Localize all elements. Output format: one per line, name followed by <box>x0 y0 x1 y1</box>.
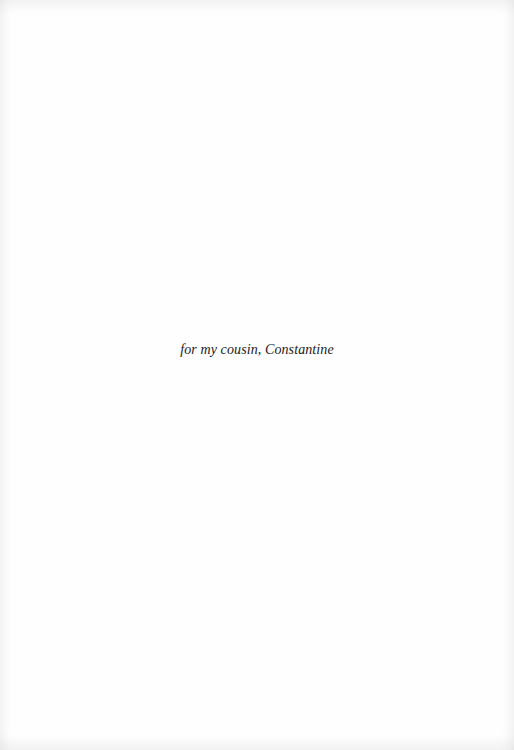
scan-edge-top <box>0 0 514 14</box>
scan-edge-left <box>0 0 10 750</box>
scan-edge-right <box>504 0 514 750</box>
dedication-text: for my cousin, Constantine <box>0 340 514 360</box>
scan-edge-bottom <box>0 734 514 750</box>
book-page: for my cousin, Constantine <box>0 0 514 750</box>
